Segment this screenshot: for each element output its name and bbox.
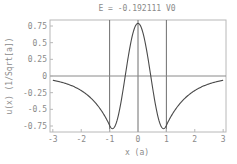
x-tick-label: 2 (192, 135, 197, 144)
x-axis-label: x (a) (125, 148, 149, 157)
x-tick-label: -3 (48, 135, 58, 144)
reference-lines (50, 20, 226, 132)
x-tick-label: -1 (105, 135, 115, 144)
x-tick-label: 1 (164, 135, 169, 144)
chart-title: E = -0.192111 V0 (98, 4, 175, 13)
x-axis-ticks: -3-2-10123 (48, 129, 226, 144)
y-tick-label: 0.75 (28, 22, 47, 31)
y-tick-label: 0.25 (28, 55, 47, 64)
x-tick-label: -2 (76, 135, 86, 144)
y-tick-label: 0.5 (33, 39, 48, 48)
x-tick-label: 3 (221, 135, 226, 144)
wavefunction-chart: E = -0.192111 V0 0.750.50.250-0.25-0.5-0… (0, 0, 237, 164)
y-tick-label: -0.5 (28, 105, 47, 114)
x-tick-label: 0 (136, 135, 141, 144)
y-tick-label: -0.25 (23, 89, 47, 98)
y-tick-label: 0 (42, 72, 47, 81)
y-axis-ticks: 0.750.50.250-0.25-0.5-0.75 (23, 22, 53, 131)
y-tick-label: -0.75 (23, 122, 47, 131)
y-axis-label: u(x) (1/Sqrt[a]) (5, 37, 14, 114)
